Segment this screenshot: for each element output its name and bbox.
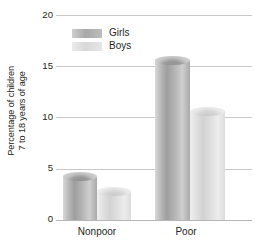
gridline-20 <box>56 15 252 16</box>
bar-cap <box>63 172 97 181</box>
y-axis-title-line-1: Percentage of children <box>6 66 17 156</box>
y-tick-label-10: 10 <box>34 112 53 122</box>
bar-nonpoor-boys <box>97 187 131 220</box>
gridline-15 <box>56 66 252 67</box>
x-axis-line <box>56 220 252 221</box>
legend-entry-boys: Boys <box>72 41 131 51</box>
x-category-label-nonpoor: Nonpoor <box>56 227 138 237</box>
bar-poor-boys <box>190 107 225 220</box>
bar-nonpoor-girls <box>63 172 97 220</box>
y-tick-label-20: 20 <box>34 10 53 20</box>
bar-poor-girls <box>155 56 190 220</box>
bar-cap <box>190 107 225 116</box>
y-tick-label-15: 15 <box>34 61 53 71</box>
legend-swatch-girls-icon <box>72 29 102 38</box>
bar-body <box>190 111 225 220</box>
y-tick-label-0: 0 <box>34 214 53 224</box>
legend-entry-girls: Girls <box>72 28 131 38</box>
y-axis-title: 7 to 18 years of age Percentage of child… <box>0 0 34 222</box>
y-tick-label-5: 5 <box>34 163 53 173</box>
legend-swatch-boys-icon <box>72 42 102 51</box>
y-axis-title-line-2: 7 to 18 years of age <box>17 71 28 150</box>
bar-chart: 7 to 18 years of age Percentage of child… <box>0 0 255 251</box>
bar-body <box>155 60 190 220</box>
x-category-label-poor: Poor <box>148 227 224 237</box>
legend: Girls Boys <box>72 28 131 51</box>
bar-cap <box>97 187 131 196</box>
bar-cap <box>155 56 190 65</box>
bar-body <box>63 176 97 220</box>
legend-label-boys: Boys <box>109 41 131 51</box>
legend-label-girls: Girls <box>109 28 130 38</box>
